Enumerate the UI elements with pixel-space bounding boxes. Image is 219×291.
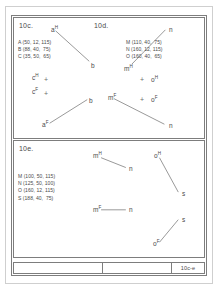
superscript-f: F — [98, 205, 101, 210]
superscript-h: H — [35, 73, 38, 78]
node-n-lower: n — [129, 207, 133, 214]
coordinate-list-10e: M (100, 50, 115) N (125, 50, 100) O (160… — [18, 173, 55, 202]
node-b-upper: b — [91, 63, 95, 70]
title-block: 10c-e — [13, 262, 205, 274]
superscript-h: H — [98, 151, 101, 156]
panel-caption-10e: 10e. — [19, 145, 33, 152]
node-m-f: mF — [108, 95, 116, 102]
superscript-f: F — [113, 93, 116, 98]
superscript-h: H — [129, 64, 132, 69]
marker-o-f: oF — [151, 97, 157, 104]
plus-icon-c-f: + — [44, 90, 48, 97]
plus-icon-c-h: + — [44, 76, 48, 83]
node-o-h: oH — [154, 153, 161, 160]
node-m-h: mH — [124, 66, 133, 73]
plus-icon-o-f: + — [140, 96, 144, 103]
node-o-f: oF — [153, 241, 159, 248]
superscript-h: H — [55, 25, 58, 30]
node-n-lower: n — [169, 123, 173, 130]
superscript-h: H — [155, 75, 158, 80]
node-a-h: aH — [51, 27, 58, 34]
marker-c-h: cH — [32, 75, 39, 82]
node-n-upper: n — [169, 27, 173, 34]
node-m-h: mH — [93, 153, 102, 160]
marker-o-h: oH — [151, 77, 158, 84]
marker-c-f: cF — [32, 89, 38, 96]
superscript-f: F — [46, 120, 49, 125]
node-a-f: aF — [42, 122, 48, 129]
node-n-upper: n — [129, 166, 133, 173]
node-m-f: mF — [93, 207, 101, 214]
superscript-h: H — [158, 151, 161, 156]
superscript-f: F — [35, 87, 38, 92]
panel-top-10c-10d: 10c. 10d. A (50, 12, 115) B (88, 40, 75)… — [13, 17, 205, 139]
node-s-upper: s — [182, 191, 185, 198]
panel-caption-10c: 10c. — [19, 22, 33, 29]
panel-caption-10d: 10d. — [94, 22, 108, 29]
superscript-f: F — [155, 95, 158, 100]
panel-top-connector-lines — [14, 18, 204, 138]
coordinate-list-10c: A (50, 12, 115) B (88, 40, 75) C (35, 50… — [18, 39, 51, 61]
coordinate-list-10d: M (110, 40, 75) N (160, 12, 115) O (160,… — [126, 39, 163, 61]
node-b-lower: b — [89, 98, 93, 105]
title-block-divider — [102, 263, 103, 273]
node-s-lower: s — [182, 217, 185, 224]
plus-icon-o-h: + — [140, 76, 144, 83]
superscript-f: F — [157, 239, 160, 244]
drawing-number-cell: 10c-e — [171, 263, 204, 273]
drawing-sheet: 10c. 10d. A (50, 12, 115) B (88, 40, 75)… — [0, 0, 219, 291]
panel-bottom-10e: 10e. M (100, 50, 115) N (125, 50, 100) O… — [13, 140, 205, 258]
